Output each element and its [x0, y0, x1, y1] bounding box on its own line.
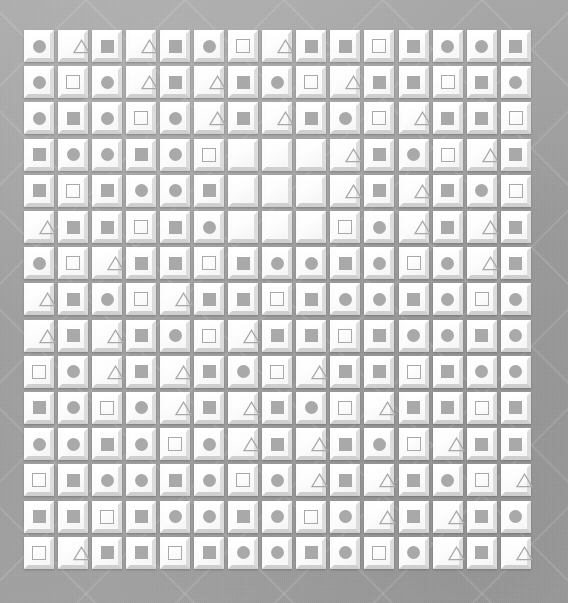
tile[interactable] [194, 175, 224, 207]
tile[interactable] [92, 320, 122, 352]
grid-cell[interactable] [226, 426, 260, 462]
grid-cell[interactable] [90, 28, 124, 64]
grid-cell[interactable] [362, 498, 396, 534]
grid-cell[interactable] [226, 535, 260, 571]
grid-cell[interactable] [328, 64, 362, 100]
tile[interactable] [194, 283, 224, 315]
grid-cell[interactable] [192, 28, 226, 64]
tile[interactable] [433, 139, 463, 171]
tile[interactable] [296, 356, 326, 388]
tile[interactable] [126, 501, 156, 533]
tile[interactable] [24, 464, 54, 496]
grid-cell[interactable] [22, 28, 56, 64]
grid-cell[interactable] [124, 64, 158, 100]
tile[interactable] [467, 392, 497, 424]
tile[interactable] [433, 66, 463, 98]
tile[interactable] [228, 102, 258, 134]
tile[interactable] [228, 356, 258, 388]
grid-cell[interactable] [397, 100, 431, 136]
grid-cell[interactable] [158, 426, 192, 462]
grid-cell[interactable] [124, 535, 158, 571]
grid-cell[interactable] [56, 426, 90, 462]
grid-cell[interactable] [56, 498, 90, 534]
tile[interactable] [126, 464, 156, 496]
grid-cell[interactable] [499, 28, 533, 64]
grid-cell[interactable] [56, 245, 90, 281]
grid-cell[interactable] [431, 100, 465, 136]
grid-cell[interactable] [56, 535, 90, 571]
tile[interactable] [296, 139, 326, 171]
grid-cell[interactable] [124, 498, 158, 534]
tile[interactable] [364, 392, 394, 424]
grid-cell[interactable] [56, 209, 90, 245]
tile[interactable] [160, 139, 190, 171]
tile[interactable] [330, 320, 360, 352]
tile[interactable] [501, 464, 531, 496]
tile[interactable] [501, 102, 531, 134]
grid-cell[interactable] [499, 354, 533, 390]
grid-cell[interactable] [90, 535, 124, 571]
grid-cell[interactable] [499, 390, 533, 426]
grid-cell[interactable] [431, 64, 465, 100]
tile[interactable] [24, 175, 54, 207]
grid-cell[interactable] [294, 100, 328, 136]
grid-cell[interactable] [465, 28, 499, 64]
tile[interactable] [296, 428, 326, 460]
grid-cell[interactable] [294, 318, 328, 354]
grid-cell[interactable] [90, 462, 124, 498]
grid-cell[interactable] [294, 281, 328, 317]
tile[interactable] [126, 283, 156, 315]
tile[interactable] [262, 66, 292, 98]
tile[interactable] [126, 30, 156, 62]
tile[interactable] [467, 102, 497, 134]
tile[interactable] [58, 66, 88, 98]
tile[interactable] [330, 247, 360, 279]
grid-cell[interactable] [260, 173, 294, 209]
tile[interactable] [330, 537, 360, 569]
grid-cell[interactable] [22, 426, 56, 462]
tile[interactable] [228, 428, 258, 460]
grid-cell[interactable] [294, 462, 328, 498]
tile[interactable] [228, 66, 258, 98]
grid-cell[interactable] [294, 137, 328, 173]
grid-cell[interactable] [158, 137, 192, 173]
tile[interactable] [160, 320, 190, 352]
tile[interactable] [364, 66, 394, 98]
grid-cell[interactable] [260, 535, 294, 571]
grid-cell[interactable] [431, 498, 465, 534]
grid-cell[interactable] [124, 245, 158, 281]
tile[interactable] [467, 428, 497, 460]
grid-cell[interactable] [499, 462, 533, 498]
grid-cell[interactable] [158, 390, 192, 426]
tile[interactable] [399, 102, 429, 134]
grid-cell[interactable] [362, 281, 396, 317]
grid-cell[interactable] [158, 498, 192, 534]
tile[interactable] [467, 211, 497, 243]
tile[interactable] [399, 537, 429, 569]
grid-cell[interactable] [499, 100, 533, 136]
tile[interactable] [467, 247, 497, 279]
tile[interactable] [92, 139, 122, 171]
tile[interactable] [126, 66, 156, 98]
tile[interactable] [399, 139, 429, 171]
grid-cell[interactable] [397, 354, 431, 390]
tile[interactable] [399, 283, 429, 315]
grid-cell[interactable] [90, 100, 124, 136]
tile[interactable] [296, 30, 326, 62]
tile[interactable] [296, 283, 326, 315]
grid-cell[interactable] [294, 390, 328, 426]
tile[interactable] [330, 392, 360, 424]
tile[interactable] [364, 501, 394, 533]
grid-cell[interactable] [431, 426, 465, 462]
tile[interactable] [330, 283, 360, 315]
grid-cell[interactable] [431, 245, 465, 281]
tile[interactable] [194, 211, 224, 243]
grid-cell[interactable] [328, 281, 362, 317]
grid-cell[interactable] [362, 64, 396, 100]
grid-cell[interactable] [499, 318, 533, 354]
grid-cell[interactable] [328, 318, 362, 354]
tile[interactable] [399, 356, 429, 388]
grid-cell[interactable] [294, 173, 328, 209]
grid-cell[interactable] [22, 462, 56, 498]
grid-cell[interactable] [260, 28, 294, 64]
